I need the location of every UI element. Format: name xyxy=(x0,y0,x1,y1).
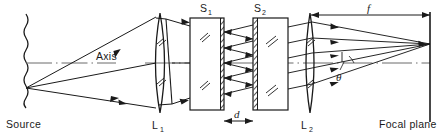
dimension-f xyxy=(311,12,430,18)
label-L2-subscript: 2 xyxy=(309,126,313,133)
label-focal-plane: Focal plane xyxy=(379,118,437,130)
label-separation-d: d xyxy=(234,108,240,120)
label-S1-subscript: 1 xyxy=(208,9,212,16)
label-L2-letter: L xyxy=(301,119,307,131)
slab-S2 xyxy=(253,18,288,110)
label-L1-subscript: 1 xyxy=(160,126,164,133)
label-focal-length-f: f xyxy=(367,2,372,14)
label-S2-subscript: 2 xyxy=(262,9,266,16)
source-plane xyxy=(24,14,28,108)
collimated-ray-arrowheads xyxy=(180,19,191,105)
collimated-rays-L1-to-S1 xyxy=(166,19,190,104)
label-S2: S 2 xyxy=(254,2,266,16)
label-L1: L 1 xyxy=(152,119,164,133)
converging-ray-arrowheads xyxy=(330,23,428,87)
label-axis: Axis xyxy=(96,50,117,62)
optics-figure: Source Axis L 1 L 2 S 1 S 2 d f θ Focal … xyxy=(0,0,446,134)
slab-S1 xyxy=(190,18,224,110)
converging-rays xyxy=(312,22,430,84)
ray-diagram-canvas: Source Axis L 1 L 2 S 1 S 2 d f θ Focal … xyxy=(0,0,446,134)
label-angle-theta: θ xyxy=(336,71,342,83)
output-rays-S2-to-L2 xyxy=(288,22,312,89)
label-S1: S 1 xyxy=(200,2,212,16)
label-L2: L 2 xyxy=(301,119,313,133)
label-S1-letter: S xyxy=(200,2,207,14)
label-source: Source xyxy=(6,118,41,130)
label-L1-letter: L xyxy=(152,119,158,131)
label-S2-letter: S xyxy=(254,2,261,14)
